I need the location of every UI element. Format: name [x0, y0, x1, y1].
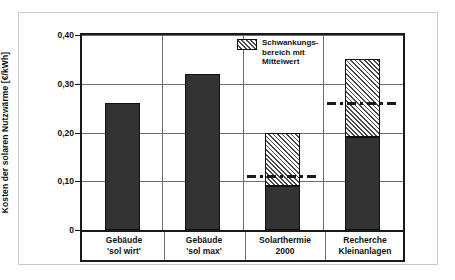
category-separator: [162, 35, 163, 230]
y-tick-label: 0: [40, 225, 74, 235]
legend-hatched-swatch-icon: [237, 39, 257, 50]
category-separator: [323, 35, 324, 230]
mean-value-line: [247, 175, 318, 178]
bar-solid-segment: [185, 74, 220, 230]
x-category-label-line2: 'sol wirt': [107, 246, 141, 257]
bar-solid-segment: [265, 186, 300, 230]
bar: [105, 35, 140, 230]
legend-label: Schwankungs- bereich mit Mittelwert: [262, 38, 318, 67]
y-tick-label: 0,40: [40, 30, 74, 40]
x-category-label: Solarthermie2000: [245, 232, 325, 260]
y-tick-label: 0,10: [40, 176, 74, 186]
x-category-label: RechercheKleinanlagen: [325, 232, 405, 260]
y-tick-label: 0,30: [40, 79, 74, 89]
x-category-label-line1: Gebäude: [106, 235, 142, 246]
x-axis-category-band: Gebäude'sol wirt'Gebäude'sol max'Solarth…: [80, 232, 405, 262]
legend: Schwankungs- bereich mit Mittelwert: [237, 38, 318, 67]
bar: [345, 35, 380, 230]
x-category-label-line1: Gebäude: [186, 235, 222, 246]
chart-figure: Kosten der solaren Nutzwärme [€/kWh] 00,…: [0, 0, 455, 280]
x-category-label-line1: Recherche: [343, 235, 386, 246]
x-category-label-line2: 'sol max': [186, 246, 222, 257]
bar-range-segment: [345, 59, 380, 137]
bar-solid-segment: [105, 103, 140, 230]
x-category-label-line1: Solarthermie: [259, 235, 311, 246]
bar-solid-segment: [345, 137, 380, 230]
bar: [185, 35, 220, 230]
plot-area: Schwankungs- bereich mit Mittelwert: [80, 33, 405, 232]
y-tick-label: 0,20: [40, 128, 74, 138]
x-category-label-line2: Kleinanlagen: [339, 246, 392, 257]
x-category-label: Gebäude'sol wirt': [84, 232, 164, 260]
y-axis-title-label: Kosten der solaren Nutzwärme [€/kWh]: [0, 52, 10, 213]
x-category-label: Gebäude'sol max': [164, 232, 244, 260]
y-axis-title: Kosten der solaren Nutzwärme [€/kWh]: [0, 33, 12, 232]
mean-value-line: [327, 102, 398, 105]
x-category-label-line2: 2000: [276, 246, 295, 257]
